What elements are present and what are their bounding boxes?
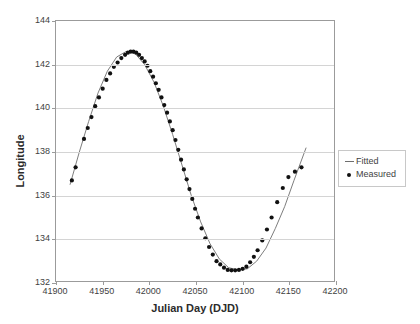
data-point [179,158,183,162]
data-point [168,119,172,123]
y-tick-label: 140 [35,102,50,112]
y-tick-label: 138 [35,146,50,156]
data-point [193,207,197,211]
legend-item-measured: Measured [342,168,402,181]
x-tick-label: 42000 [136,286,161,297]
data-point [86,126,90,130]
data-point [159,95,163,99]
data-point [222,266,226,270]
data-point [101,87,105,91]
data-point [190,197,194,201]
x-tick-mark [103,281,104,285]
data-point [74,165,78,169]
y-tick-mark [52,65,56,66]
fitted-line-series [70,52,306,270]
data-point [104,78,108,82]
data-point [265,227,269,231]
gridline [56,196,334,197]
x-axis-tick-labels: 41900419504200042050421004215042200 [55,286,335,300]
data-point [248,260,252,264]
data-point [218,262,222,266]
y-tick-label: 144 [35,15,50,25]
data-point [286,175,290,179]
y-tick-mark [52,239,56,240]
data-point [256,248,260,252]
data-point [244,265,248,269]
data-point [229,268,233,272]
data-point [162,103,166,107]
x-tick-label: 41950 [89,286,114,297]
x-tick-label: 41900 [42,286,67,297]
line-marker-icon [342,161,356,162]
data-point [108,71,112,75]
data-point [137,53,141,57]
y-tick-mark [52,196,56,197]
data-point [148,69,152,73]
data-point [237,268,241,272]
x-tick-mark [336,281,337,285]
plot-area [55,20,335,282]
x-tick-label: 42050 [182,286,207,297]
legend-item-fitted: Fitted [342,155,402,168]
y-tick-mark [52,152,56,153]
x-tick-mark [56,281,57,285]
data-point [241,267,245,271]
y-axis-tick-labels: 132134136138140142144 [0,20,50,282]
data-point [211,253,215,257]
x-tick-label: 42200 [322,286,347,297]
gridline [56,108,334,109]
gridline [56,65,334,66]
data-point [97,95,101,99]
data-point [143,59,147,63]
x-tick-mark [243,281,244,285]
y-tick-label: 134 [35,233,50,243]
data-point [200,226,204,230]
data-point [185,177,189,181]
data-point [154,81,158,85]
gridline [56,152,334,153]
data-point [140,56,144,60]
data-point [252,255,256,259]
gridline [56,239,334,240]
data-point [173,138,177,142]
data-point [70,178,74,182]
data-point [157,88,161,92]
legend-label: Measured [356,168,396,181]
chart-legend: Fitted Measured [338,150,406,187]
data-point [214,259,218,263]
data-point [89,115,93,119]
data-point [119,56,123,60]
x-tick-label: 42150 [276,286,301,297]
y-tick-mark [52,21,56,22]
data-point [233,268,237,272]
y-tick-label: 136 [35,190,50,200]
data-point [165,111,169,115]
data-point [207,245,211,249]
dot-marker-icon [342,173,356,177]
data-point [275,200,279,204]
x-tick-mark [289,281,290,285]
data-point [187,187,191,191]
x-tick-mark [196,281,197,285]
data-point [293,170,297,174]
data-point [182,167,186,171]
chart-figure: Longitude 132134136138140142144 41900419… [0,0,420,324]
data-point [226,268,230,272]
data-point [281,186,285,190]
x-tick-label: 42100 [229,286,254,297]
y-tick-mark [52,108,56,109]
data-point [151,75,155,79]
data-point [270,215,274,219]
x-axis-title: Julian Day (DJD) [55,302,335,315]
data-point [299,165,303,169]
x-tick-mark [149,281,150,285]
y-tick-label: 142 [35,59,50,69]
data-point [82,137,86,141]
legend-label: Fitted [356,155,379,168]
data-point [196,215,200,219]
data-point [171,128,175,132]
